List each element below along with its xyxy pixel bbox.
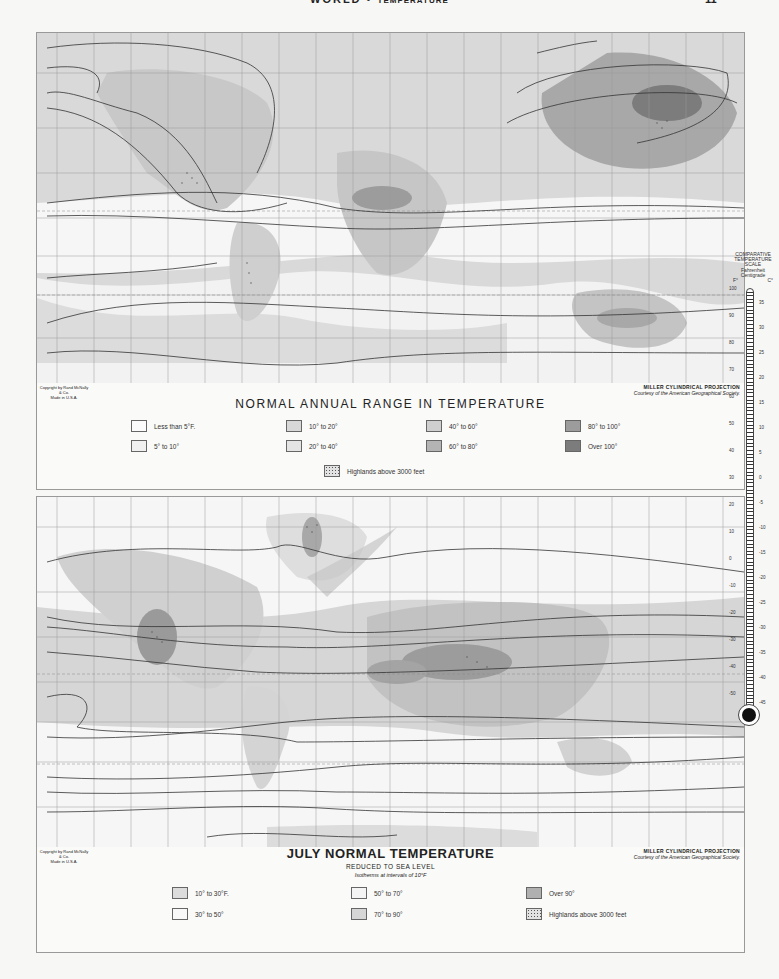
f-tick: 70 <box>729 367 734 372</box>
highlands-pattern-swatch <box>324 465 340 477</box>
legend-item-30-to-50: 30° to 50° <box>172 908 224 920</box>
legend-swatch <box>351 908 367 920</box>
c-tick: 25 <box>759 350 764 355</box>
f-tick: 40 <box>729 448 734 453</box>
isotherm-interval-note: Isotherms at intervals of 10°F <box>37 872 744 878</box>
f-tick: -10 <box>729 583 736 588</box>
map-subtitle: REDUCED TO SEA LEVEL <box>37 863 744 870</box>
f-tick: 10 <box>729 529 734 534</box>
highlands-pattern-swatch <box>526 908 542 920</box>
legend-item-5-to-10: 5° to 10° <box>131 440 179 452</box>
legend-item-highlands: Highlands above 3000 feet <box>324 465 424 477</box>
f-tick: 30 <box>729 475 734 480</box>
july-temperature-map-panel: Copyright by Rand McNally & Co.Made in U… <box>36 496 745 953</box>
legend-item-60-to-80: 60° to 80° <box>426 440 478 452</box>
legend-swatch <box>526 887 542 899</box>
c-tick: -45 <box>759 700 766 705</box>
legend-item-50-to-70: 50° to 70° <box>351 887 403 899</box>
c-tick: 35 <box>759 300 764 305</box>
legend-item-40-to-60: 40° to 60° <box>426 420 478 432</box>
legend-swatch <box>172 887 188 899</box>
legend-swatch <box>172 908 188 920</box>
scale-heading: COMPARATIVE TEMPERATURE SCALE Fahrenheit… <box>727 252 779 283</box>
f-tick: -50 <box>729 691 736 696</box>
page-title: WORLD • TEMPERATURE <box>310 0 449 5</box>
f-tick: -40 <box>729 664 736 669</box>
legend-item-over-90: Over 90° <box>526 887 575 899</box>
c-tick: 10 <box>759 425 764 430</box>
c-tick: -40 <box>759 675 766 680</box>
f-tick: 80 <box>729 340 734 345</box>
legend-swatch <box>565 440 581 452</box>
legend-item-70-to-90: 70° to 90° <box>351 908 403 920</box>
legend-item-10-to-20: 10° to 20° <box>286 420 338 432</box>
c-tick: 15 <box>759 400 764 405</box>
c-tick: 5 <box>759 450 762 455</box>
f-tick: 100 <box>729 286 737 291</box>
map-title: JULY NORMAL TEMPERATURE <box>37 846 744 861</box>
thermometer-bulb-icon <box>738 704 760 726</box>
legend-swatch <box>426 440 442 452</box>
annual-range-map-graphic <box>37 33 744 383</box>
page-number: 11 <box>705 0 717 5</box>
legend-swatch <box>351 887 367 899</box>
july-temperature-map-graphic <box>37 497 744 847</box>
f-tick: 20 <box>729 502 734 507</box>
projection-note: MILLER CYLINDRICAL PROJECTIONCourtesy of… <box>634 384 740 396</box>
annual-range-map-panel: Copyright by Rand McNally & Co.Made in U… <box>36 32 745 490</box>
legend-swatch <box>286 420 302 432</box>
legend-item-over-100: Over 100° <box>565 440 617 452</box>
f-tick: -30 <box>729 637 736 642</box>
thermometer-tube <box>746 288 754 711</box>
legend-item-80-to-100: 80° to 100° <box>565 420 620 432</box>
legend-swatch <box>286 440 302 452</box>
f-tick: 0 <box>729 556 732 561</box>
legend-swatch <box>565 420 581 432</box>
legend-swatch <box>426 420 442 432</box>
legend-item-less-than-5: Less than 5°F. <box>131 420 195 432</box>
c-tick: 0 <box>759 475 762 480</box>
c-tick: -10 <box>759 525 766 530</box>
f-tick: 90 <box>729 313 734 318</box>
c-tick: -5 <box>759 500 763 505</box>
c-tick: -25 <box>759 600 766 605</box>
c-tick: -20 <box>759 575 766 580</box>
comparative-temperature-scale: COMPARATIVE TEMPERATURE SCALE Fahrenheit… <box>727 252 779 732</box>
f-tick: 60 <box>729 394 734 399</box>
f-tick: -20 <box>729 610 736 615</box>
legend-item-highlands: Highlands above 3000 feet <box>526 908 626 920</box>
july-temperature-map <box>37 497 744 847</box>
c-tick: -30 <box>759 625 766 630</box>
legend-swatch <box>131 440 147 452</box>
page-header: WORLD • TEMPERATURE 11 <box>0 0 779 7</box>
legend-swatch <box>131 420 147 432</box>
f-tick: 50 <box>729 421 734 426</box>
legend-item-10-to-30: 10° to 30°F. <box>172 887 229 899</box>
c-tick: 20 <box>759 375 764 380</box>
annual-range-map <box>37 33 744 383</box>
legend-item-20-to-40: 20° to 40° <box>286 440 338 452</box>
map-title: NORMAL ANNUAL RANGE IN TEMPERATURE <box>37 397 744 411</box>
c-tick: -35 <box>759 650 766 655</box>
c-tick: -15 <box>759 550 766 555</box>
c-tick: 30 <box>759 325 764 330</box>
